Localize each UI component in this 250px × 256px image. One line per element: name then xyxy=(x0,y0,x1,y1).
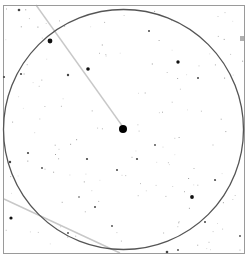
faint-star xyxy=(46,23,47,24)
faint-star xyxy=(38,232,39,233)
faint-star xyxy=(179,137,180,138)
faint-star xyxy=(46,59,47,60)
star xyxy=(86,158,88,160)
star xyxy=(94,206,96,208)
star xyxy=(111,225,113,227)
target-star xyxy=(119,125,127,133)
faint-star xyxy=(138,93,139,94)
faint-star xyxy=(53,172,54,173)
faint-star xyxy=(232,199,233,200)
edge-marker xyxy=(240,36,244,41)
faint-star xyxy=(99,53,100,54)
faint-star xyxy=(29,18,30,19)
faint-star xyxy=(39,119,40,120)
faint-star xyxy=(63,98,64,99)
faint-star xyxy=(30,231,31,232)
faint-star xyxy=(225,12,226,13)
faint-star xyxy=(97,128,98,129)
faint-star xyxy=(121,241,122,242)
star xyxy=(3,76,5,78)
faint-star xyxy=(102,45,103,46)
faint-star xyxy=(193,184,194,185)
faint-star xyxy=(172,102,173,103)
faint-star xyxy=(55,145,56,146)
faint-star xyxy=(235,195,236,196)
faint-star xyxy=(59,20,60,21)
faint-star xyxy=(217,223,218,224)
star xyxy=(27,152,29,154)
faint-star xyxy=(209,242,210,243)
faint-star xyxy=(210,249,211,250)
faint-star xyxy=(197,245,198,246)
star xyxy=(41,167,43,169)
faint-star xyxy=(222,173,223,174)
faint-star xyxy=(187,109,188,110)
faint-star xyxy=(69,175,70,176)
faint-star xyxy=(190,193,191,194)
faint-star xyxy=(62,202,63,203)
faint-star xyxy=(122,175,123,176)
star xyxy=(176,60,179,63)
star xyxy=(9,161,11,163)
faint-star xyxy=(232,21,233,22)
faint-star xyxy=(233,75,234,76)
faint-star xyxy=(174,138,175,139)
star xyxy=(154,144,156,146)
faint-star xyxy=(135,151,136,152)
star xyxy=(78,196,80,198)
faint-star xyxy=(27,161,28,162)
faint-star xyxy=(184,191,185,192)
faint-star xyxy=(224,39,225,40)
faint-star xyxy=(197,185,198,186)
faint-star xyxy=(104,22,105,23)
faint-star xyxy=(39,86,40,87)
faint-star xyxy=(199,65,200,66)
faint-star xyxy=(84,181,85,182)
faint-star xyxy=(6,9,7,10)
faint-star xyxy=(50,243,51,244)
faint-star xyxy=(224,78,225,79)
faint-star xyxy=(18,96,19,97)
faint-star xyxy=(139,131,140,132)
faint-star xyxy=(137,124,138,125)
faint-star xyxy=(24,74,25,75)
faint-star xyxy=(91,190,92,191)
faint-star xyxy=(186,74,187,75)
faint-star xyxy=(60,226,61,227)
faint-star xyxy=(215,64,216,65)
faint-star xyxy=(18,176,19,177)
faint-star xyxy=(223,202,224,203)
faint-star xyxy=(70,144,71,145)
faint-star xyxy=(174,154,175,155)
star xyxy=(86,67,90,71)
faint-star xyxy=(42,38,43,39)
star xyxy=(239,235,241,237)
faint-star xyxy=(21,26,22,27)
faint-star xyxy=(98,201,99,202)
faint-star xyxy=(58,158,59,159)
faint-star xyxy=(188,178,189,179)
faint-star xyxy=(167,72,168,73)
faint-star xyxy=(85,211,86,212)
star xyxy=(177,249,179,251)
star xyxy=(67,232,69,234)
faint-star xyxy=(168,162,169,163)
faint-star xyxy=(37,27,38,28)
faint-star xyxy=(102,128,103,129)
star xyxy=(204,221,206,223)
faint-star xyxy=(178,222,179,223)
faint-star xyxy=(146,190,147,191)
faint-star xyxy=(12,122,13,123)
finder-chart xyxy=(0,0,250,256)
faint-star xyxy=(92,110,93,111)
faint-star xyxy=(11,193,12,194)
faint-star xyxy=(165,196,166,197)
faint-star xyxy=(59,149,60,150)
faint-star xyxy=(76,139,77,140)
faint-star xyxy=(105,54,106,55)
faint-star xyxy=(140,183,141,184)
faint-star xyxy=(132,157,133,158)
faint-star xyxy=(201,111,202,112)
star xyxy=(197,77,199,79)
faint-star xyxy=(10,176,11,177)
